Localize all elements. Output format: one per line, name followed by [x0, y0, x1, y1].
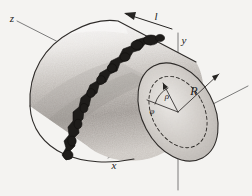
axis-label-z: z: [9, 12, 15, 24]
cylinder-crack-figure: z y x l R ρ φ: [0, 0, 252, 196]
length-label: l: [154, 10, 157, 22]
crack-node: [120, 53, 130, 61]
crack-node: [80, 103, 88, 112]
axis-label-x: x: [111, 159, 117, 171]
crack-node: [131, 41, 143, 50]
figure-root: z y x l R ρ φ: [0, 0, 252, 196]
length-indicator: [124, 12, 172, 29]
outer-radius-label: R: [189, 84, 198, 98]
crack-node: [107, 64, 116, 72]
crack-node: [87, 89, 95, 98]
crack-node: [74, 119, 82, 129]
crack-node: [97, 76, 106, 85]
crack-node: [155, 34, 164, 41]
crack-node: [68, 136, 76, 146]
axis-label-y: y: [181, 34, 187, 46]
radial-coordinate-label: ρ: [164, 91, 170, 101]
azimuthal-angle-label: φ: [150, 106, 155, 116]
left-arrow-icon: [124, 12, 136, 20]
crack-node: [63, 150, 73, 159]
